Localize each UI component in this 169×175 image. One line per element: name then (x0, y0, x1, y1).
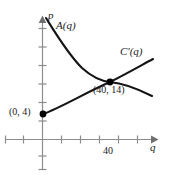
y-axis-arrowhead (39, 16, 47, 24)
x-axis-label: q (150, 142, 156, 153)
point-label-intersection: (40, 14) (93, 85, 125, 95)
chart-plot-area (0, 0, 169, 175)
xtick-label-40: 40 (103, 146, 113, 156)
chart-figure: 40 p q A(q) C'(q) (0, 4) (40, 14) (0, 0, 169, 175)
curve-label-c-prime-of-q: C'(q) (120, 46, 143, 57)
point-marker-origin (40, 111, 47, 118)
point-label-origin: (0, 4) (9, 107, 31, 117)
curve-label-a-of-q: A(q) (56, 20, 76, 31)
y-axis-label: p (48, 10, 54, 21)
